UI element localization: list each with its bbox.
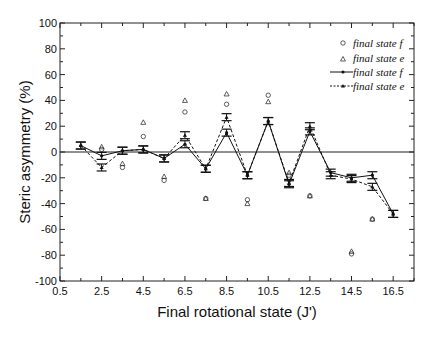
y-tick-label: -80 — [41, 249, 57, 261]
open-triangle-marker-icon — [99, 144, 104, 149]
x-tick-label: 12.5 — [299, 285, 320, 297]
legend-item-solid-f: final state f — [330, 66, 404, 78]
open-circle-marker-icon — [183, 110, 187, 114]
filled-dot-marker-icon — [183, 143, 186, 146]
open-circle-marker-icon — [224, 102, 228, 106]
y-tick-label: 80 — [45, 43, 57, 55]
open-triangle-marker-icon — [141, 120, 146, 125]
legend-label: final state f — [353, 66, 404, 78]
dashed-series-line — [81, 117, 393, 214]
x-tick-label: 10.5 — [258, 285, 279, 297]
y-tick-label: 40 — [45, 94, 57, 106]
y-tick-label: -20 — [41, 172, 57, 184]
y-axis-label: Steric asymmetry (%) — [16, 80, 33, 223]
filled-dot-marker-icon — [225, 131, 228, 134]
data-series — [76, 91, 398, 256]
x-tick-label: 8.5 — [219, 285, 234, 297]
filled-dot-marker-icon — [371, 174, 374, 177]
x-tick-label: 4.5 — [136, 285, 151, 297]
legend-item-dashed-e: final state e — [330, 80, 404, 92]
filled-triangle-marker-icon — [183, 133, 187, 137]
legend-label: final state e — [353, 80, 404, 92]
y-tick-label: 60 — [45, 69, 57, 81]
filled-triangle-marker-icon — [329, 173, 333, 177]
solid-series-line — [81, 121, 393, 214]
filled-triangle-marker-icon — [308, 124, 312, 128]
legend: final state f final state e final state … — [330, 37, 404, 92]
open-triangle-marker-icon — [266, 99, 271, 104]
open-triangle-marker-icon — [182, 98, 187, 103]
steric-asymmetry-chart: 0.52.54.56.58.510.512.514.516.5100806040… — [0, 0, 437, 338]
open-circle-marker-icon — [266, 93, 270, 97]
y-tick-label: -100 — [35, 275, 57, 287]
x-tick-label: 2.5 — [94, 285, 109, 297]
x-axis-label: Final rotational state (J') — [157, 303, 317, 320]
open-circle-marker-icon — [341, 41, 345, 45]
legend-item-triangle-e: final state e — [341, 52, 405, 64]
open-triangle-marker-icon — [287, 170, 292, 175]
y-tick-label: -40 — [41, 198, 57, 210]
y-tick-label: 100 — [39, 17, 57, 29]
filled-triangle-marker-icon — [225, 115, 229, 119]
legend-item-circle-f: final state f — [341, 37, 405, 49]
open-triangle-marker-icon — [245, 201, 250, 206]
open-triangle-marker-icon — [349, 249, 354, 254]
x-tick-label: 14.5 — [341, 285, 362, 297]
y-tick-label: 0 — [51, 146, 57, 158]
legend-label: final state f — [353, 37, 404, 49]
open-triangle-marker-icon — [341, 57, 346, 62]
open-circle-marker-icon — [141, 134, 145, 138]
open-triangle-marker-icon — [224, 91, 229, 96]
filled-dot-icon — [341, 70, 344, 73]
legend-label: final state e — [353, 52, 404, 64]
y-tick-label: 20 — [45, 120, 57, 132]
filled-dot-marker-icon — [100, 154, 103, 157]
x-tick-label: 16.5 — [382, 285, 403, 297]
y-tick-label: -60 — [41, 223, 57, 235]
x-tick-label: 6.5 — [177, 285, 192, 297]
